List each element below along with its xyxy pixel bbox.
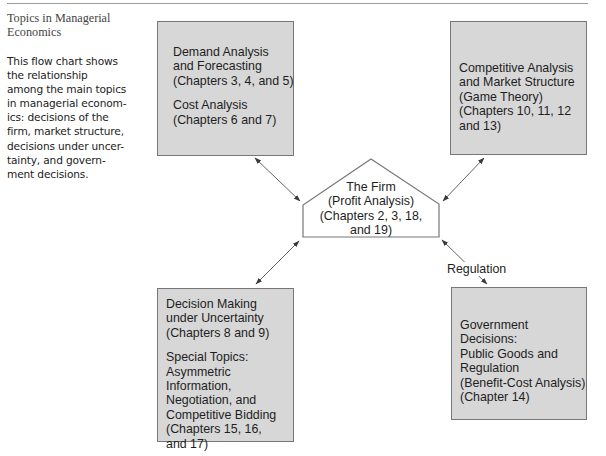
box-text-line: and 13) [459, 119, 586, 133]
box-group: Demand Analysis and Forecasting (Chapter… [173, 45, 293, 88]
firm-text-line: (Profit Analysis) [303, 194, 439, 208]
box-decision-uncertainty: Decision Making under Uncertainty (Chapt… [157, 288, 294, 442]
box-text-line: and Forecasting [173, 59, 293, 73]
box-text-line: Government [460, 318, 586, 332]
box-text-line: Competitive Analysis [459, 61, 586, 75]
box-text-line: (Chapters 10, 11, 12 [459, 104, 586, 118]
box-demand-cost-analysis: Demand Analysis and Forecasting (Chapter… [157, 21, 294, 156]
box-group: Government Decisions: Public Goods and R… [460, 318, 586, 404]
box-text-line: Competitive Bidding [166, 408, 293, 422]
firm-node: The Firm (Profit Analysis) (Chapters 2, … [303, 180, 439, 238]
box-text-line: Decisions: [460, 332, 586, 346]
box-text-line: Information, [166, 379, 293, 393]
firm-text-line: and 19) [303, 223, 439, 237]
box-competitive-analysis: Competitive Analysis and Market Structur… [450, 21, 587, 155]
box-text-line: (Chapters 6 and 7) [173, 113, 293, 127]
box-text-line: Special Topics: [166, 350, 293, 364]
box-text-line: Decision Making [166, 297, 293, 311]
box-text-line: (Chapters 15, 16, [166, 422, 293, 436]
box-text-line: and 17) [166, 437, 293, 451]
box-text-line: Demand Analysis [173, 45, 293, 59]
box-government-decisions: Government Decisions: Public Goods and R… [451, 287, 587, 420]
box-text-line: and Market Structure [459, 75, 586, 89]
box-group: Competitive Analysis and Market Structur… [459, 61, 586, 133]
arrow-bottom-left-to-firm [256, 241, 299, 284]
box-text-line: Asymmetric [166, 365, 293, 379]
box-group: Decision Making under Uncertainty (Chapt… [166, 297, 293, 340]
box-text-line: (Benefit-Cost Analysis) [460, 376, 586, 390]
box-text-line: Negotiation, and [166, 393, 293, 407]
box-text-line: (Chapters 3, 4, and 5) [173, 74, 293, 88]
arrow-top-left-to-firm [255, 158, 300, 201]
box-group: Special Topics: Asymmetric Information, … [166, 350, 293, 451]
arrow-top-right-to-firm [443, 158, 484, 201]
firm-text-line: The Firm [303, 180, 439, 194]
box-text-line: (Chapter 14) [460, 390, 586, 404]
box-group: Cost Analysis (Chapters 6 and 7) [173, 98, 293, 127]
box-text-line: Cost Analysis [173, 98, 293, 112]
box-text-line: (Game Theory) [459, 90, 586, 104]
firm-text-line: (Chapters 2, 3, 18, [303, 209, 439, 223]
box-text-line: under Uncertainty [166, 311, 293, 325]
box-text-line: Regulation [460, 361, 586, 375]
box-text-line: (Chapters 8 and 9) [166, 326, 293, 340]
box-text-line: Public Goods and [460, 347, 586, 361]
edge-label-regulation: Regulation [446, 262, 507, 276]
